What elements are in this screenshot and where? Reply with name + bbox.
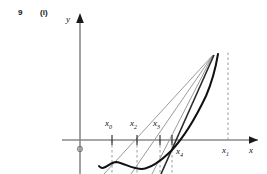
point-label-x4: x4 [175,146,183,158]
y-axis-label: y [65,14,70,24]
x-axis-label: x [248,145,253,155]
point-label-x0: x0 [104,118,112,130]
figure-container: 9 (i) [0,0,267,174]
x-axis-arrowhead [249,136,258,144]
point-label-x3: x3 [152,118,160,130]
labels-group: y x O x0 x2 x3 x4 x1 [65,14,253,158]
function-curve [99,54,218,169]
y-axis-arrowhead [76,13,84,23]
point-label-x1: x1 [221,145,229,157]
chord-x1-to-x4 [161,55,214,174]
point-label-x2: x2 [129,118,137,130]
origin-label: O [77,145,83,154]
diagram-svg: y x O x0 x2 x3 x4 x1 [0,0,267,174]
